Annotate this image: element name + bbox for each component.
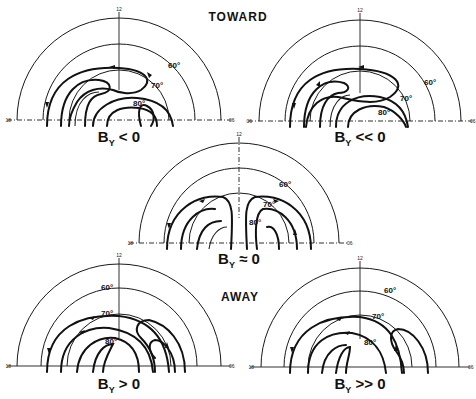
lat-label-80: 80° [249, 218, 261, 227]
tick-12: 12 [116, 6, 122, 12]
lat-label-70: 70° [400, 94, 412, 103]
panel-by-ll-0: 12 06 06 60° 70° 80° [246, 7, 475, 127]
lat-label-70: 70° [151, 81, 163, 90]
panel-by-gg-0: 12 18 06 60° 70° 80° [248, 255, 473, 373]
flow-cell-dusk-inner [197, 221, 221, 249]
tick-12: 12 [236, 131, 242, 137]
flow-cell-dusk-core [93, 344, 113, 372]
panel-by-lt-0: 12 18 06 60° 70° 80° [5, 6, 234, 126]
tick-12: 12 [357, 255, 363, 261]
tick-06: 06 [470, 118, 476, 124]
panel-by-gt-0: 12 18 06 60° 70° 80° [5, 252, 234, 372]
flow-cell-dawn [336, 96, 408, 127]
caption-by-gt-0: BY > 0 [98, 375, 140, 395]
tick-12: 12 [357, 7, 363, 13]
caption-by-approx-0: BY ≈ 0 [218, 250, 260, 270]
lat-label-60: 60° [168, 61, 180, 70]
flow-cell-dusk-core [336, 347, 350, 373]
away-label: AWAY [221, 290, 259, 304]
caption-by-lt-0: BY < 0 [98, 128, 140, 148]
lat-label-60: 60° [384, 286, 396, 295]
panel-by-approx-0: 12 18 06 60° 70° 80° [127, 131, 352, 249]
flow-arrow [316, 81, 320, 87]
flow-cell-dusk-inner [61, 80, 110, 126]
flow-cell-dusk [167, 196, 232, 249]
tick-18: 18 [248, 364, 254, 370]
flow-cell-dusk-inner [304, 82, 348, 127]
lat-label-70: 70° [263, 200, 275, 209]
lat-label-60: 60° [279, 180, 291, 189]
convection-pattern-figure: TOWARD AWAY 12 18 06 60° 70° 80° BY < 0 … [0, 0, 476, 399]
tick-18: 18 [5, 363, 11, 369]
flow-cell-dawn-inner [267, 227, 279, 249]
tick-06: 06 [229, 363, 235, 369]
tick-18: 18 [5, 117, 11, 123]
flow-arrow [147, 72, 152, 78]
tick-06: 06 [229, 117, 235, 123]
tick-06: 06 [468, 364, 474, 370]
lat-label-60: 60° [424, 78, 436, 87]
flow-cell-dawn-inner [107, 108, 157, 126]
caption-by-ll-0: BY << 0 [334, 128, 385, 148]
lat-label-80: 80° [364, 338, 376, 347]
tick-12: 12 [116, 252, 122, 258]
flow-cell-dawn-inner [348, 106, 406, 127]
caption-by-gg-0: BY >> 0 [334, 375, 385, 395]
tick-18: 06 [246, 118, 252, 124]
flow-line [209, 227, 227, 249]
tick-18: 18 [127, 240, 133, 246]
toward-label: TOWARD [208, 10, 267, 24]
flow-cell-dusk-inner [322, 345, 346, 373]
lat-label-60: 60° [101, 283, 113, 292]
tick-06: 06 [347, 240, 353, 246]
